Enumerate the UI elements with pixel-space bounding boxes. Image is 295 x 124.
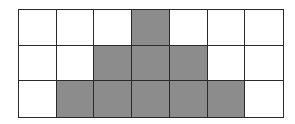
grid-cell-empty: [19, 81, 57, 117]
grid-cell-filled: [57, 81, 95, 117]
grid-cell-filled: [170, 46, 208, 82]
grid-cell-empty: [57, 46, 95, 82]
grid-cell-filled: [94, 46, 132, 82]
grid-cell-empty: [208, 46, 246, 82]
grid-cell-filled: [132, 10, 170, 46]
shaded-grid-diagram: [18, 9, 284, 118]
grid-cell-filled: [208, 81, 246, 117]
grid-cell-filled: [170, 81, 208, 117]
grid-cell-empty: [245, 46, 283, 82]
grid-cell-empty: [19, 10, 57, 46]
grid-cell-empty: [245, 10, 283, 46]
grid-cell-empty: [57, 10, 95, 46]
grid-cell-empty: [170, 10, 208, 46]
grid-cell-empty: [94, 10, 132, 46]
grid-cell-filled: [132, 46, 170, 82]
grid-cell-empty: [245, 81, 283, 117]
grid-cell-empty: [19, 46, 57, 82]
grid-cell-filled: [132, 81, 170, 117]
grid-cell-empty: [208, 10, 246, 46]
grid-cell-filled: [94, 81, 132, 117]
